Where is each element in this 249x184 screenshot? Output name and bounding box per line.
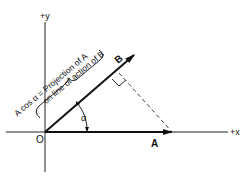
- x-axis-label: +x: [230, 127, 240, 137]
- annotation-line-1: A cos α = Projection of A: [12, 51, 90, 118]
- vector-projection-diagram: +x +y O A B α A cos α = Projection of A …: [0, 0, 249, 184]
- y-axis-label: +y: [40, 11, 50, 21]
- angle-label: α: [81, 113, 86, 123]
- right-angle-marker: [112, 79, 126, 86]
- projection-dashed-line: [119, 73, 172, 132]
- origin-label: O: [36, 134, 44, 145]
- vector-a-label: A: [151, 138, 158, 149]
